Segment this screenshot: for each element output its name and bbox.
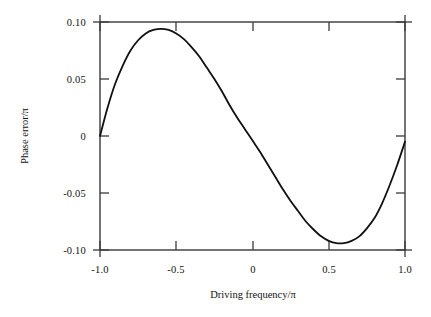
- y-axis-ticks-right-outer: [405, 22, 412, 250]
- ytick-label-0: 0: [40, 131, 86, 142]
- xtick-label--0.5: -0.5: [167, 264, 184, 275]
- axes-border: [100, 22, 405, 250]
- ytick-label-0.05: 0.05: [40, 74, 86, 85]
- xtick-label--1.0: -1.0: [91, 264, 108, 275]
- axes-frame: [100, 22, 405, 250]
- x-axis-ticks-bottom: [100, 241, 405, 250]
- phase-error-plot: [0, 0, 431, 317]
- x-axis-ticks-bottom-outer: [100, 250, 405, 257]
- y-axis-ticks-left: [100, 22, 109, 250]
- xtick-label-0: 0: [250, 264, 255, 275]
- ytick-label--0.05: -0.05: [40, 188, 86, 199]
- phase-error-curve: [100, 29, 405, 244]
- y-axis-title: Phase error/π: [19, 108, 30, 164]
- ytick-label--0.10: -0.10: [40, 245, 86, 256]
- x-axis-ticks-top: [100, 22, 405, 31]
- y-axis-ticks-right: [396, 22, 405, 250]
- y-axis-ticks-left-outer: [93, 22, 100, 250]
- xtick-label-1.0: 1.0: [398, 264, 412, 275]
- ytick-label-0.10: 0.10: [40, 17, 86, 28]
- x-axis-ticks-top-outer: [100, 15, 405, 22]
- figure-canvas: 0.10 0.05 0 -0.05 -0.10 -1.0 -0.5 0 0.5 …: [0, 0, 431, 317]
- x-axis-title: Driving frequency/π: [210, 289, 295, 300]
- xtick-label-0.5: 0.5: [322, 264, 336, 275]
